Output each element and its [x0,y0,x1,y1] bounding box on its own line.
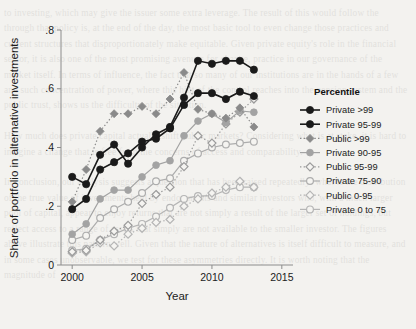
x-tick-label: 2010 [200,271,224,283]
data-point-marker [250,109,257,116]
data-point-marker [306,134,314,142]
data-point-marker [139,190,146,197]
data-point-marker [208,60,215,67]
data-point-marker [110,242,118,250]
data-point-marker [167,175,174,182]
data-point-marker [83,220,90,227]
data-point-marker [222,57,229,64]
data-point-marker [250,66,257,73]
data-point-marker [138,144,145,151]
legend-label: Public 95-99 [326,162,378,172]
data-point-marker [152,191,160,199]
data-point-marker [138,199,146,207]
data-point-marker [124,110,132,118]
x-axis-ticks: 2000200520102015 [61,265,294,283]
data-point-marker [236,140,243,147]
legend-label: Private 95-99 [326,120,381,130]
data-point-marker [195,150,202,157]
x-axis-title: Year [165,290,188,302]
data-point-marker [236,177,244,185]
data-point-marker [181,132,188,139]
legend-item-private-0-to-75[interactable]: Private 0 to 75 [300,205,386,215]
y-tick-label: .4 [45,141,54,153]
chart-figure: 0.2.4.6.8 2000200520102015 Share of port… [0,0,416,329]
data-point-marker [69,231,76,238]
legend-item-public-0-95[interactable]: Public 0-95 [300,191,373,201]
series-line [72,73,254,202]
data-point-marker [153,178,160,185]
data-point-marker [194,105,202,113]
data-point-marker [97,196,104,203]
data-point-marker [139,173,146,180]
data-point-marker [180,69,188,77]
data-point-marker [125,187,132,194]
data-point-marker [250,123,258,131]
data-point-marker [97,151,104,158]
data-point-marker [208,90,215,97]
data-point-marker [68,198,76,206]
chart-series-group [68,57,258,257]
data-point-marker [167,157,174,164]
data-point-marker [181,196,188,203]
series-private-95-99 [69,88,258,213]
data-point-marker [250,138,257,145]
legend-item-private-90-95[interactable]: Private 90-95 [300,148,381,158]
data-point-marker [194,90,201,97]
chart-legend: Percentile Private >99Private 95-99Publi… [300,86,386,215]
data-point-marker [83,232,90,239]
legend-item-public-99[interactable]: Public >99 [300,134,370,144]
legend-label: Public >99 [326,134,370,144]
data-point-marker [152,131,159,138]
data-point-marker [306,163,314,171]
legend-label: Private 90-95 [326,148,381,158]
data-point-marker [125,198,132,205]
data-point-marker [180,94,187,101]
data-point-marker [306,191,314,199]
data-point-marker [124,160,131,167]
legend-item-private-99[interactable]: Private >99 [300,105,373,115]
data-point-marker [236,57,243,64]
data-point-marker [97,166,104,173]
data-point-marker [111,187,118,194]
data-point-marker [208,110,216,118]
data-point-marker [138,102,146,110]
x-tick-label: 2015 [270,271,294,283]
data-point-marker [307,178,314,185]
alternative-investments-line-chart: 0.2.4.6.8 2000200520102015 Share of port… [0,0,416,329]
legend-item-public-95-99[interactable]: Public 95-99 [300,162,378,172]
data-point-marker [83,181,90,188]
data-point-marker [167,204,174,211]
legend-item-private-95-99[interactable]: Private 95-99 [300,120,381,130]
data-point-marker [236,88,243,95]
y-axis-ticks: 0.2.4.6.8 [45,24,61,271]
legend-label: Private 75-90 [326,176,381,186]
data-point-marker [69,206,76,213]
data-point-marker [222,95,229,102]
data-point-marker [82,166,90,174]
data-point-marker [306,106,313,113]
data-point-marker [124,230,132,238]
y-tick-label: .8 [45,24,54,36]
y-tick-label: .2 [45,200,54,212]
data-point-marker [97,215,104,222]
legend-label: Private 0 to 75 [326,205,386,215]
data-point-marker [124,150,131,157]
data-point-marker [152,218,160,226]
data-point-marker [223,141,230,148]
legend-item-private-75-90[interactable]: Private 75-90 [300,176,381,186]
legend-entries: Private >99Private 95-99Public >99Privat… [300,105,386,214]
legend-label: Public 0-95 [326,191,373,201]
data-point-marker [111,159,118,166]
data-point-marker [166,95,174,103]
legend-title: Percentile [314,86,360,97]
data-point-marker [306,121,313,128]
y-tick-label: .6 [45,82,54,94]
data-point-marker [69,173,76,180]
data-point-marker [307,149,314,156]
y-tick-label: 0 [48,259,54,271]
data-point-marker [194,132,202,140]
data-point-marker [194,57,201,64]
y-axis-title: Share of portfolio in alternative invest… [8,37,20,258]
data-point-marker [153,162,160,169]
data-point-marker [111,141,118,148]
